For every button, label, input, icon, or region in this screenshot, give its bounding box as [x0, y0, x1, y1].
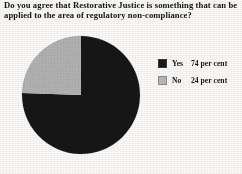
legend-swatch-no: [158, 76, 167, 85]
legend-label-yes: Yes 74 per cent: [172, 59, 227, 68]
legend-key-no: No: [172, 76, 187, 85]
chart-title-line-2: applied to the area of regulatory non-co…: [4, 11, 240, 21]
pie-slices-group: [22, 36, 140, 154]
chart-legend: Yes 74 per cent No 24 per cent: [158, 56, 240, 90]
pie-chart-svg: [21, 29, 143, 163]
legend-label-no: No 24 per cent: [172, 76, 227, 85]
legend-row-no: No 24 per cent: [158, 73, 240, 88]
legend-key-yes: Yes: [172, 59, 187, 68]
pie-slice-no: [22, 36, 81, 95]
legend-value-yes: 74 per cent: [191, 59, 227, 68]
figure-root: Do you agree that Restorative Justice is…: [0, 0, 242, 174]
pie-chart: [21, 29, 143, 163]
legend-swatch-yes: [158, 59, 167, 68]
chart-title: Do you agree that Restorative Justice is…: [4, 1, 240, 21]
legend-value-no: 24 per cent: [191, 76, 227, 85]
legend-row-yes: Yes 74 per cent: [158, 56, 240, 71]
